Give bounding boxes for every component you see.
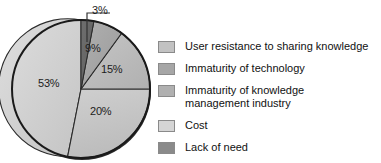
legend-label: Lack of need xyxy=(185,141,248,154)
pie-chart-svg xyxy=(0,0,160,163)
legend-swatch-icon xyxy=(158,63,175,75)
legend-item-lack-of-need: Lack of need xyxy=(158,141,248,154)
legend-item-cost: Cost xyxy=(158,119,208,132)
legend-swatch-icon xyxy=(158,142,175,154)
pie-chart-figure: 3% 9% 15% 20% 53% User resistance to sha… xyxy=(0,0,381,163)
legend-swatch-icon xyxy=(158,120,175,132)
data-label-user-resistance: 53% xyxy=(38,77,59,89)
pie-slice-cost xyxy=(68,89,150,158)
legend-label: Cost xyxy=(185,119,208,132)
legend-label: Immaturity of technology xyxy=(185,62,305,75)
data-label-cost: 20% xyxy=(90,105,111,117)
legend-swatch-icon xyxy=(158,85,175,97)
legend-label: User resistance to sharing knowledge xyxy=(185,40,368,53)
legend-item-user-resistance: User resistance to sharing knowledge xyxy=(158,40,368,53)
data-label-immaturity-technology: 9% xyxy=(85,42,101,54)
chart-legend: User resistance to sharing knowledge Imm… xyxy=(155,38,381,153)
legend-item-immaturity-technology: Immaturity of technology xyxy=(158,62,305,75)
data-label-km-industry: 15% xyxy=(101,63,122,75)
pie-chart-area: 3% 9% 15% 20% 53% xyxy=(0,0,160,163)
legend-swatch-icon xyxy=(158,41,175,53)
data-label-lack-of-need: 3% xyxy=(92,4,108,16)
legend-item-km-industry: Immaturity of knowledge management indus… xyxy=(158,84,304,110)
legend-label: Immaturity of knowledge management indus… xyxy=(185,84,304,110)
